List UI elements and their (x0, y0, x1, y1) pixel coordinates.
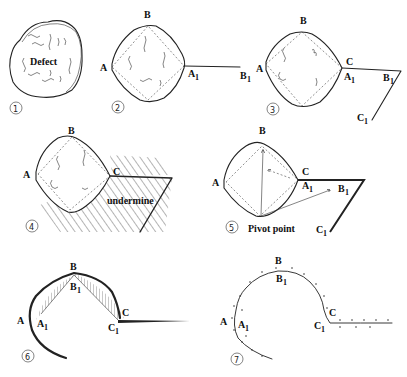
pivot-arrow-B1 (261, 190, 330, 216)
label-A: A (256, 63, 264, 74)
svg-text:1: 1 (323, 229, 327, 238)
step-5-number: 5 (229, 224, 234, 233)
svg-text:1: 1 (309, 185, 313, 194)
label-C: C (329, 307, 336, 318)
label-A: A (100, 62, 108, 73)
suture-dots (231, 267, 389, 357)
panel-4: A B C undermine 4 (23, 125, 172, 232)
label-A: A (23, 169, 31, 180)
svg-text:1: 1 (351, 76, 355, 85)
label-A: A (220, 316, 228, 327)
label-C: C (122, 307, 129, 318)
step-2-number: 2 (115, 104, 120, 113)
label-B1: B (383, 72, 390, 83)
label-A: A (17, 315, 25, 326)
arrow-A1-to-B (268, 170, 290, 178)
panel-7: B B 1 A A 1 C C 1 7 (220, 255, 392, 365)
svg-text:1: 1 (247, 75, 251, 84)
panel-5: A B C A 1 B 1 C 1 Pivot point 5 (212, 125, 364, 238)
defect-outline (112, 26, 185, 102)
svg-text:1: 1 (44, 323, 48, 332)
step-1-number: 1 (13, 105, 18, 114)
svg-text:1: 1 (245, 324, 249, 333)
label-B: B (70, 261, 77, 272)
svg-text:1: 1 (195, 73, 199, 82)
label-B1: B (338, 183, 345, 194)
healed-suture-line (234, 271, 392, 359)
undermine-label: undermine (107, 195, 154, 206)
label-B1: B (70, 281, 77, 292)
svg-text:1: 1 (364, 117, 368, 126)
panel-3: A B C A 1 B 1 C 1 3 (256, 15, 401, 126)
step-6-number: 6 (25, 353, 30, 362)
svg-text:1: 1 (321, 325, 325, 334)
svg-text:1: 1 (115, 327, 119, 336)
label-B: B (259, 125, 266, 136)
defect-outline (224, 142, 298, 216)
svg-text:1: 1 (345, 188, 349, 197)
pivot-point-label: Pivot point (248, 223, 296, 234)
panel-2: A B A 1 B 1 2 (100, 9, 251, 113)
label-B: B (68, 125, 75, 136)
step-3-number: 3 (270, 106, 275, 115)
defect-outline (266, 32, 342, 107)
incision-line (184, 66, 240, 67)
flap-diagram: Defect 1 A B A 1 B 1 2 A B C A 1 (0, 0, 407, 377)
label-C: C (302, 166, 309, 177)
step-4-number: 4 (29, 223, 34, 232)
svg-text:1: 1 (77, 286, 81, 295)
label-B1: B (240, 70, 247, 81)
label-B: B (275, 255, 282, 266)
svg-text:1: 1 (390, 77, 394, 86)
label-A: A (212, 177, 220, 188)
panel-6: B B 1 A A 1 C C 1 6 (17, 261, 190, 362)
panel-1: Defect 1 (10, 21, 82, 114)
step-7-number: 7 (234, 356, 239, 365)
label-B: B (300, 15, 307, 26)
pivot-arrow-B (261, 150, 263, 216)
label-B: B (144, 9, 151, 20)
closed-incision (118, 320, 190, 323)
label-C: C (346, 56, 353, 67)
label-B1: B (276, 273, 283, 284)
svg-text:1: 1 (283, 278, 287, 287)
defect-label: Defect (30, 56, 58, 67)
label-C: C (113, 166, 120, 177)
